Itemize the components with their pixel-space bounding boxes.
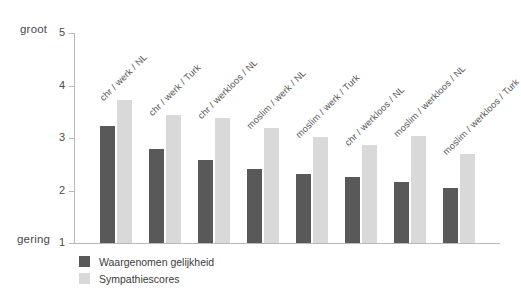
bar-sympathiescores [264, 128, 279, 244]
chart-legend: Waargenomen gelijkheidSympathiescores [79, 253, 214, 287]
legend-swatch-icon [79, 273, 90, 284]
bar-sympathiescores [117, 100, 132, 243]
bar-waargenomen-gelijkheid [443, 188, 458, 243]
bar-sympathiescores [362, 145, 377, 243]
y-axis-tick-label: 2 [41, 185, 65, 196]
y-axis-tick-label: 4 [41, 80, 65, 91]
legend-item: Waargenomen gelijkheid [79, 253, 214, 270]
bar-waargenomen-gelijkheid [345, 177, 360, 243]
y-axis-tick-mark [69, 33, 74, 34]
bar-waargenomen-gelijkheid [296, 174, 311, 243]
bar-group [198, 33, 236, 243]
bar-waargenomen-gelijkheid [198, 160, 213, 243]
bar-sympathiescores [460, 154, 475, 243]
y-axis-tick-mark [69, 191, 74, 192]
legend-item: Sympathiescores [79, 270, 214, 287]
bar-sympathiescores [166, 115, 181, 243]
bar-waargenomen-gelijkheid [100, 126, 115, 243]
legend-label: Waargenomen gelijkheid [99, 256, 214, 268]
legend-label: Sympathiescores [99, 273, 180, 285]
y-axis-line [74, 33, 75, 243]
bar-waargenomen-gelijkheid [394, 182, 409, 243]
bar-group [149, 33, 187, 243]
bar-waargenomen-gelijkheid [247, 169, 262, 243]
y-axis-tick-label: 1 [41, 237, 65, 248]
y-axis-tick-mark [69, 243, 74, 244]
y-axis-tick-label: 3 [41, 132, 65, 143]
bar-sympathiescores [411, 136, 426, 243]
legend-swatch-icon [79, 256, 90, 267]
y-axis-tick-mark [69, 86, 74, 87]
x-axis-line [74, 243, 500, 244]
bar-waargenomen-gelijkheid [149, 149, 164, 244]
y-axis-tick-label: 5 [41, 27, 65, 38]
plot-area: 54321 chr / werk / NLchr / werk / Turkch… [74, 33, 500, 243]
y-axis-tick-mark [69, 138, 74, 139]
bar-sympathiescores [313, 137, 328, 243]
bar-sympathiescores [215, 118, 230, 243]
